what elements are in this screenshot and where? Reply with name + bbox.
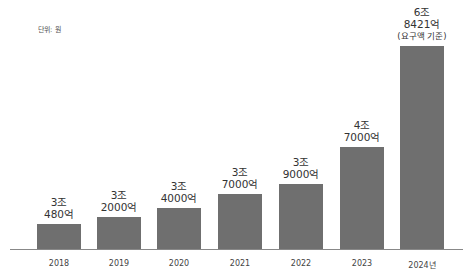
- data-label: 4조7000억: [322, 119, 402, 143]
- x-tick-label: 2020: [149, 259, 209, 268]
- x-tick-label: 2022: [271, 259, 331, 268]
- bar-2024년: [400, 46, 444, 250]
- data-label: 3조9000억: [261, 156, 341, 180]
- bar-chart: 단위: 원 3조480억3조2000억3조4000억3조7000억3조9000억…: [0, 0, 471, 280]
- unit-label: 단위: 원: [38, 24, 61, 34]
- x-axis-line: [10, 249, 463, 250]
- x-tick-label: 2024년: [392, 259, 452, 270]
- bar-2018: [37, 224, 81, 250]
- data-label: 6조8421억(요구액 기준): [382, 6, 462, 42]
- bar-2022: [279, 184, 323, 250]
- x-tick-label: 2023: [332, 259, 392, 268]
- bar-2021: [218, 194, 262, 250]
- x-tick-label: 2018: [29, 259, 89, 268]
- bar-2019: [97, 217, 141, 250]
- bar-2020: [157, 208, 201, 250]
- x-tick-label: 2019: [89, 259, 149, 268]
- bar-2023: [340, 147, 384, 250]
- x-tick-label: 2021: [210, 259, 270, 268]
